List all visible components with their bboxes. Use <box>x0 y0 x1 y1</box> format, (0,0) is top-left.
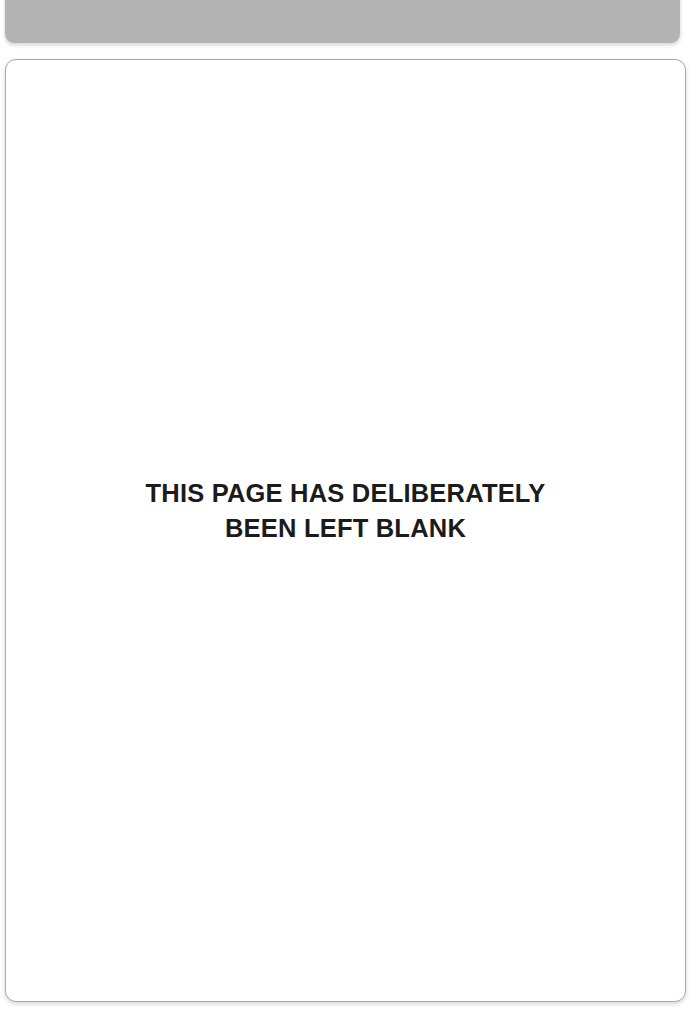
blank-page-notice: THIS PAGE HAS DELIBERATELY BEEN LEFT BLA… <box>6 476 685 546</box>
blank-page-notice-line-1: THIS PAGE HAS DELIBERATELY <box>6 476 685 511</box>
page-content-area: THIS PAGE HAS DELIBERATELY BEEN LEFT BLA… <box>6 60 685 1001</box>
document-viewer[interactable]: THIS PAGE HAS DELIBERATELY BEEN LEFT BLA… <box>0 0 691 1019</box>
blank-page-notice-line-2: BEEN LEFT BLANK <box>6 511 685 546</box>
previous-page-partial <box>5 0 680 43</box>
page-blank: THIS PAGE HAS DELIBERATELY BEEN LEFT BLA… <box>5 59 686 1002</box>
